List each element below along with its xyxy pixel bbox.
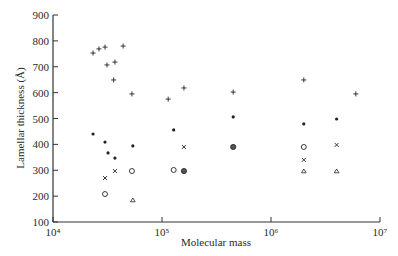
marker-plus [121, 44, 126, 49]
y-tick-label: 300 [33, 164, 50, 176]
marker-dot [106, 151, 109, 154]
y-tick-label: 200 [33, 190, 50, 202]
marker-triangle [131, 198, 136, 202]
marker-cross [302, 158, 306, 162]
marker-plus [111, 77, 116, 82]
marker-plus [301, 77, 306, 82]
x-tick-label: 10⁶ [264, 226, 279, 238]
marker-plus [166, 97, 171, 102]
marker-open-circle [129, 169, 134, 174]
marker-dot [113, 156, 116, 159]
marker-cross [182, 145, 186, 149]
marker-cross [103, 176, 107, 180]
marker-plus [231, 90, 236, 95]
marker-filled-circle [231, 144, 236, 149]
x-tick-label: 10⁷ [373, 226, 388, 238]
data-points [91, 44, 359, 202]
marker-triangle [334, 169, 339, 173]
marker-plus [105, 62, 110, 67]
marker-dot [172, 128, 175, 131]
marker-dot [335, 117, 338, 120]
marker-dot [103, 140, 106, 143]
y-axis-title: Lamellar thickness (Å) [14, 67, 27, 169]
x-tick-label: 10⁴ [46, 226, 61, 238]
marker-open-circle [301, 144, 306, 149]
y-tick-label: 600 [33, 87, 50, 99]
y-tick-label: 900 [33, 9, 50, 21]
marker-plus [129, 91, 134, 96]
y-tick-label: 800 [33, 35, 50, 47]
marker-plus [91, 51, 96, 56]
marker-open-circle [171, 167, 176, 172]
marker-plus [181, 85, 186, 90]
axes: 10020030040050060070080090010⁴10⁵10⁶10⁷ [33, 9, 388, 238]
y-tick-label: 400 [33, 138, 50, 150]
marker-dot [302, 122, 305, 125]
marker-cross [335, 143, 339, 147]
marker-dot [91, 132, 94, 135]
marker-open-circle [103, 192, 108, 197]
marker-dot [232, 115, 235, 118]
marker-plus [353, 91, 358, 96]
x-axis-title: Molecular mass [181, 236, 251, 248]
marker-dot [131, 144, 134, 147]
marker-filled-circle [181, 168, 186, 173]
marker-triangle [302, 169, 307, 173]
scatter-chart: 10020030040050060070080090010⁴10⁵10⁶10⁷ … [0, 0, 398, 256]
marker-plus [103, 45, 108, 50]
y-tick-label: 700 [33, 61, 50, 73]
marker-cross [113, 169, 117, 173]
y-tick-label: 500 [33, 113, 50, 125]
marker-plus [96, 46, 101, 51]
x-tick-label: 10⁵ [155, 226, 170, 238]
marker-plus [112, 60, 117, 65]
